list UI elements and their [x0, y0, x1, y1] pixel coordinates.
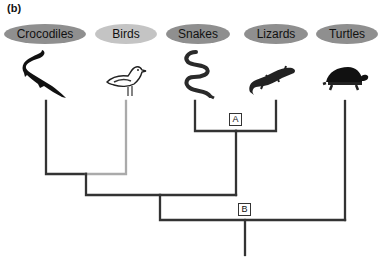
node-label-b: B: [238, 203, 251, 216]
branch-crocodiles: [46, 101, 86, 174]
branch-birds: [86, 101, 126, 174]
node-label-a: A: [229, 113, 242, 126]
cladogram: [0, 0, 392, 266]
branch-archosaur-stem: [86, 174, 236, 195]
branch-diapsid-stem: [160, 195, 345, 220]
branch-lizards: [236, 101, 276, 131]
